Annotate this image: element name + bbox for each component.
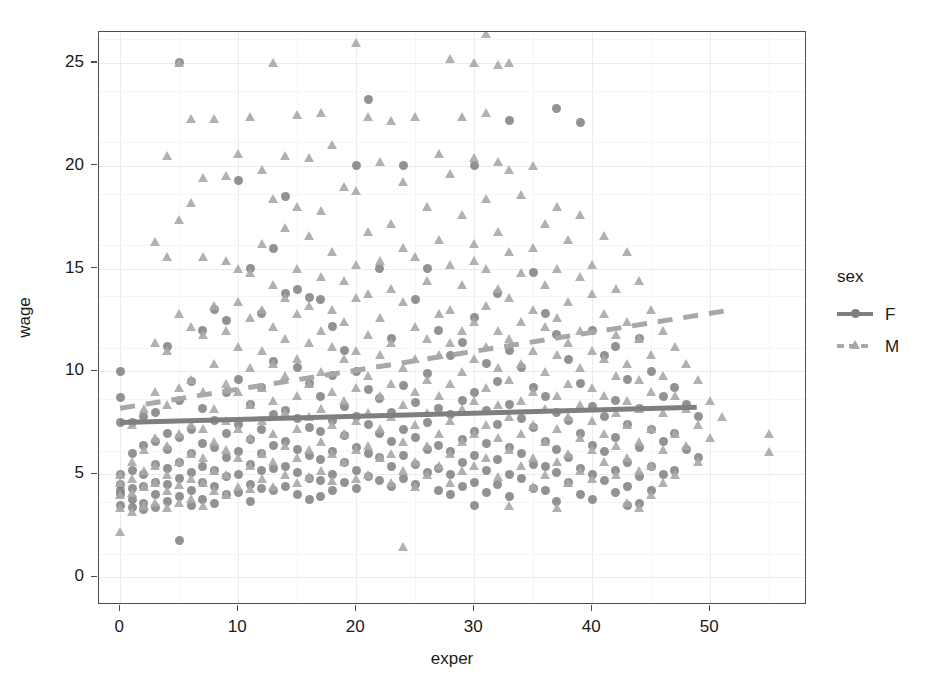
x-tick-label: 50	[679, 618, 739, 635]
x-tick-mark	[709, 605, 710, 611]
legend-label-m: M	[885, 338, 899, 355]
y-tick-label: 0	[36, 567, 84, 584]
x-tick-label: 10	[207, 618, 267, 635]
x-tick-label: 40	[561, 618, 621, 635]
y-tick-mark	[91, 267, 97, 268]
x-tick-mark	[591, 605, 592, 611]
y-tick-label: 5	[36, 464, 84, 481]
fit-line-m	[120, 310, 732, 408]
y-tick-label: 10	[36, 361, 84, 378]
y-axis-title: wage	[16, 287, 33, 347]
y-tick-label: 15	[36, 259, 84, 276]
x-tick-label: 30	[443, 618, 503, 635]
legend-marker-circle-icon	[851, 309, 860, 318]
legend-title: sex	[837, 268, 932, 285]
legend: sex FM	[836, 268, 932, 363]
y-tick-label: 25	[36, 53, 84, 70]
legend-entry-f[interactable]: F	[836, 299, 932, 329]
legend-entries: FM	[836, 299, 932, 361]
legend-label-f: F	[885, 306, 895, 323]
y-tick-label: 20	[36, 156, 84, 173]
x-tick-mark	[237, 605, 238, 611]
legend-entry-m[interactable]: M	[836, 331, 932, 361]
y-tick-mark	[91, 576, 97, 577]
legend-marker-triangle-icon	[850, 340, 860, 349]
x-tick-mark	[355, 605, 356, 611]
fit-line-f	[120, 407, 697, 422]
y-tick-mark	[91, 370, 97, 371]
legend-key-m	[836, 333, 874, 359]
y-tick-mark	[91, 61, 97, 62]
x-tick-label: 0	[89, 618, 149, 635]
plot-panel	[98, 31, 806, 604]
x-axis-title: exper	[422, 650, 482, 667]
x-tick-mark	[473, 605, 474, 611]
x-tick-label: 20	[325, 618, 385, 635]
scatter-plot-figure: 0510152025 01020304050 wage exper sex FM	[0, 0, 937, 690]
regression-lines-layer	[99, 32, 805, 603]
y-tick-mark	[91, 164, 97, 165]
legend-key-f	[836, 301, 874, 327]
x-tick-mark	[119, 605, 120, 611]
y-tick-mark	[91, 473, 97, 474]
